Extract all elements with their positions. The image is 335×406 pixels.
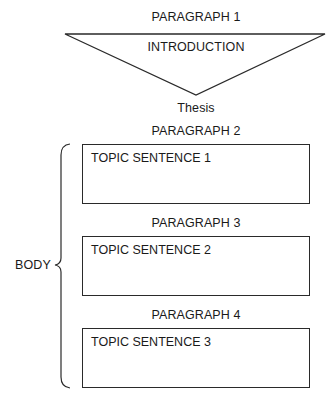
paragraph-3-box: TOPIC SENTENCE 2: [82, 236, 310, 296]
body-brace: [55, 144, 70, 388]
thesis-label: Thesis: [177, 101, 214, 115]
paragraph-2-box: TOPIC SENTENCE 1: [82, 144, 310, 204]
paragraph-4-heading: PARAGRAPH 4: [151, 308, 240, 322]
paragraph-2-heading: PARAGRAPH 2: [151, 124, 240, 138]
topic-sentence-1: TOPIC SENTENCE 1: [91, 151, 211, 165]
paragraph-1-heading: PARAGRAPH 1: [151, 10, 240, 24]
topic-sentence-3: TOPIC SENTENCE 3: [91, 335, 211, 349]
paragraph-3-heading: PARAGRAPH 3: [151, 216, 240, 230]
body-label: BODY: [15, 258, 51, 272]
introduction-label: INTRODUCTION: [147, 40, 244, 54]
topic-sentence-2: TOPIC SENTENCE 2: [91, 243, 211, 257]
paragraph-4-box: TOPIC SENTENCE 3: [82, 328, 310, 388]
